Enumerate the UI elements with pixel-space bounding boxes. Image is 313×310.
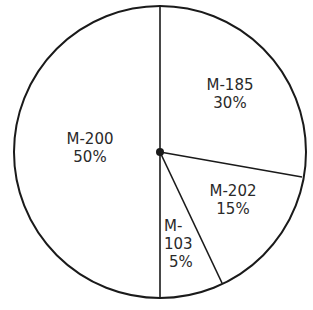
slice-percent: 50% (50, 148, 130, 166)
slice-percent: 5% (164, 253, 208, 271)
slice-name-line2: 103 (164, 235, 208, 253)
slice-name: M-200 (50, 130, 130, 148)
slice-name-line1: M- (164, 217, 208, 235)
slice-label-m103: M- 103 5% (160, 217, 208, 271)
slice-percent: 15% (198, 200, 268, 218)
slice-label-m200: M-200 50% (50, 130, 130, 166)
slice-name: M-202 (198, 182, 268, 200)
pie-center-dot (156, 148, 164, 156)
slice-percent: 30% (190, 94, 270, 112)
slice-label-m185: M-185 30% (190, 76, 270, 112)
pie-chart (0, 0, 313, 310)
slice-label-m202: M-202 15% (198, 182, 268, 218)
slice-name: M-185 (190, 76, 270, 94)
